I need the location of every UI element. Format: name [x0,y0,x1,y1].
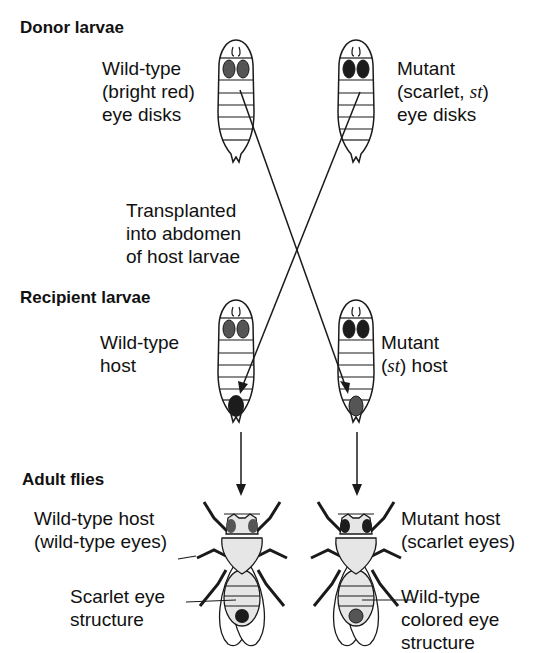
section-donor-larvae: Donor larvae [20,18,124,38]
section-adult-flies: Adult flies [22,470,104,490]
section-recipient-larvae: Recipient larvae [20,288,150,308]
adult-fly-mutant-host [311,502,401,646]
label-transplant: Transplanted into abdomen of host larvae [126,199,241,268]
label-adult-wildtype-host: Wild-type host (wild-type eyes) [34,507,167,553]
label-recipient-mutant: Mutant (st) host [381,331,448,377]
label-scarlet-eye-structure: Scarlet eye structure [70,585,165,631]
transplant-line-wt-to-mut [240,90,345,385]
label-adult-mutant-host: Mutant host (scarlet eyes) [401,507,515,553]
recipient-larva-mutant [338,300,374,422]
label-donor-wildtype: Wild-type (bright red) eye disks [102,57,195,126]
label-recipient-wildtype: Wild-type host [100,331,179,377]
recipient-larva-wildtype [218,300,254,422]
label-donor-mutant: Mutant (scarlet, st) eye disks [397,57,489,126]
adult-fly-wildtype-host [197,502,287,646]
donor-larva-wildtype [218,40,254,162]
label-wildtype-colored-eye-structure: Wild-type colored eye structure [401,585,499,653]
